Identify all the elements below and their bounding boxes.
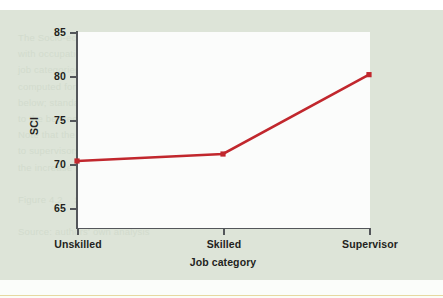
line-chart: 85 80 75 70 65 Unskilled Skilled Supervi… — [0, 0, 443, 298]
data-point-marker — [366, 72, 371, 77]
series-markers-sci — [74, 72, 371, 164]
series-line-sci — [77, 75, 369, 161]
data-point-marker — [220, 151, 225, 156]
figure-page: The Socio-economic Index (SCI) scores ro… — [0, 0, 443, 298]
series-layer — [0, 0, 443, 298]
page-footer-rule — [0, 295, 443, 296]
data-point-marker — [74, 158, 79, 163]
